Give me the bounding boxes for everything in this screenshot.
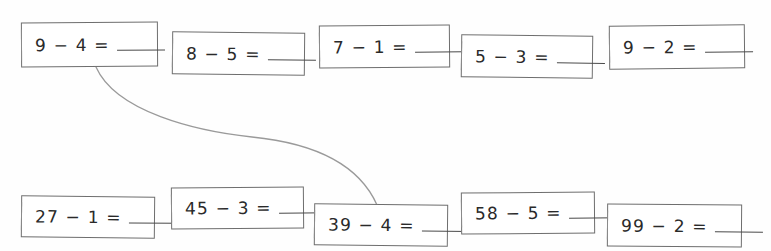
expression-text: 99 − 2 =: [621, 215, 708, 236]
problem-content: 58 − 5 =: [462, 202, 617, 223]
problem-box-bottom-4[interactable]: 58 − 5 =: [461, 191, 595, 234]
expression-text: 39 − 4 =: [328, 214, 415, 235]
problem-box-bottom-1[interactable]: 27 − 1 =: [21, 195, 155, 238]
problem-box-top-3[interactable]: 7 − 1 =: [319, 24, 450, 68]
expression-text: 9 − 4 =: [35, 34, 110, 54]
problem-content: 39 − 4 =: [315, 214, 470, 236]
answer-blank[interactable]: [715, 218, 763, 232]
problem-content: 8 − 5 =: [173, 43, 316, 64]
expression-text: 9 − 2 =: [623, 37, 698, 58]
answer-blank[interactable]: [705, 38, 753, 53]
answer-blank[interactable]: [117, 36, 165, 50]
problem-content: 45 − 3 =: [172, 197, 327, 218]
problem-box-bottom-2[interactable]: 45 − 3 =: [171, 186, 304, 229]
problem-content: 99 − 2 =: [608, 215, 763, 236]
problem-box-top-2[interactable]: 8 − 5 =: [172, 31, 305, 75]
problem-content: 9 − 2 =: [610, 36, 753, 57]
answer-blank[interactable]: [415, 38, 463, 52]
expression-text: 27 − 1 =: [35, 206, 122, 227]
problem-box-top-4[interactable]: 5 − 3 =: [461, 34, 594, 79]
worksheet-canvas: 9 − 4 = 8 − 5 = 7 − 1 = 5 − 3 = 9 − 2 = …: [0, 0, 771, 251]
expression-text: 8 − 5 =: [186, 43, 261, 64]
problem-box-bottom-3[interactable]: 39 − 4 =: [314, 203, 448, 246]
problem-content: 27 − 1 =: [22, 206, 177, 227]
problem-box-top-5[interactable]: 9 − 2 =: [609, 24, 745, 69]
expression-text: 7 − 1 =: [333, 36, 408, 57]
connector-line-9minus4-to-39minus4[interactable]: [96, 67, 377, 205]
problem-content: 7 − 1 =: [320, 36, 463, 57]
expression-text: 5 − 3 =: [475, 46, 550, 67]
answer-blank[interactable]: [557, 49, 605, 64]
problem-content: 5 − 3 =: [462, 46, 605, 68]
answer-blank[interactable]: [129, 209, 177, 223]
expression-text: 45 − 3 =: [185, 198, 272, 219]
answer-blank[interactable]: [268, 46, 316, 60]
problem-box-bottom-5[interactable]: 99 − 2 =: [607, 203, 742, 247]
expression-text: 58 − 5 =: [475, 203, 562, 224]
problem-box-top-1[interactable]: 9 − 4 =: [21, 22, 158, 68]
problem-content: 9 − 4 =: [22, 34, 165, 55]
